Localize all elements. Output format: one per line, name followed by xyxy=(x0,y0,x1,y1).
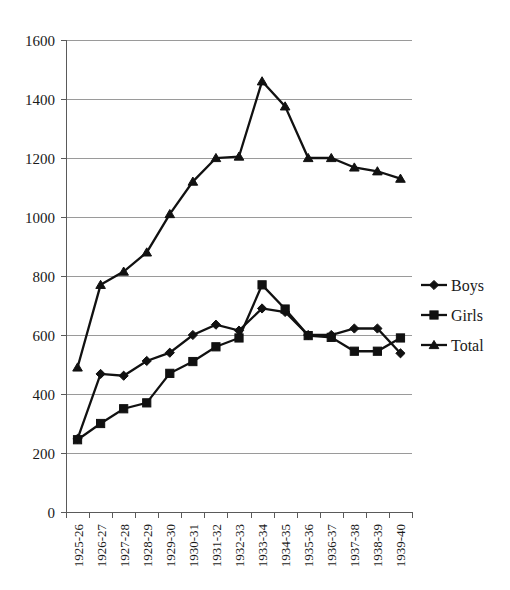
y-axis-tick-label: 0 xyxy=(48,505,56,521)
line-chart: 02004006008001000120014001600 1925-26192… xyxy=(0,0,510,590)
y-axis-tick-labels: 02004006008001000120014001600 xyxy=(25,33,55,521)
y-axis-tick-label: 1400 xyxy=(25,92,55,108)
x-axis-tick-label: 1936-37 xyxy=(324,524,339,568)
data-point-square-marker xyxy=(327,333,335,341)
data-point-triangle-marker xyxy=(257,77,267,85)
legend-label: Boys xyxy=(451,277,484,295)
data-point-square-marker xyxy=(430,311,438,319)
x-axis-tick-label: 1929-30 xyxy=(163,524,178,567)
data-point-square-marker xyxy=(373,347,381,355)
data-point-square-marker xyxy=(235,334,243,342)
gridlines xyxy=(66,41,412,454)
y-axis-tick-label: 1600 xyxy=(25,33,55,49)
data-point-square-marker xyxy=(396,334,404,342)
data-point-square-marker xyxy=(212,343,220,351)
data-point-triangle-marker xyxy=(142,248,152,256)
y-axis-tick-label: 1200 xyxy=(25,151,55,167)
y-axis-tick-label: 400 xyxy=(33,387,56,403)
data-point-square-marker xyxy=(97,419,105,427)
series-boys xyxy=(73,304,405,444)
data-series xyxy=(73,77,406,444)
axes xyxy=(61,40,413,518)
data-point-square-marker xyxy=(258,281,266,289)
data-point-square-marker xyxy=(304,331,312,339)
x-axis-tick-label: 1930-31 xyxy=(186,524,201,567)
x-axis-tick-label: 1926-27 xyxy=(94,524,109,568)
data-point-square-marker xyxy=(143,399,151,407)
x-axis-tick-label: 1931-32 xyxy=(209,524,224,567)
data-point-diamond-marker xyxy=(211,320,220,329)
x-axis-tick-label: 1937-38 xyxy=(347,524,362,567)
legend: BoysGirlsTotal xyxy=(421,277,484,354)
data-point-triangle-marker xyxy=(96,280,106,288)
x-axis-tick-label: 1928-29 xyxy=(140,524,155,567)
data-point-square-marker xyxy=(189,357,197,365)
x-axis-tick-label: 1933-34 xyxy=(255,524,270,568)
chart-canvas: 02004006008001000120014001600 1925-26192… xyxy=(0,0,510,590)
data-point-diamond-marker xyxy=(429,280,438,289)
legend-item-total[interactable]: Total xyxy=(421,337,484,354)
y-axis-tick-label: 1000 xyxy=(25,210,55,226)
x-axis-tick-label: 1939-40 xyxy=(393,524,408,567)
series-girls xyxy=(73,281,404,444)
y-axis-tick-label: 800 xyxy=(33,269,56,285)
data-point-square-marker xyxy=(73,436,81,444)
x-axis-tick-label: 1938-39 xyxy=(370,524,385,567)
legend-label: Girls xyxy=(451,307,483,324)
x-axis-tick-label: 1925-26 xyxy=(71,524,86,568)
data-point-square-marker xyxy=(281,305,289,313)
data-point-square-marker xyxy=(166,369,174,377)
x-axis-tick-labels: 1925-261926-271927-281928-291929-301930-… xyxy=(71,524,409,568)
legend-label: Total xyxy=(451,337,484,354)
data-point-diamond-marker xyxy=(96,369,105,378)
data-point-square-marker xyxy=(120,405,128,413)
x-axis-tick-label: 1934-35 xyxy=(278,524,293,567)
data-point-diamond-marker xyxy=(350,324,359,333)
series-line-total xyxy=(78,81,401,367)
y-axis-tick-label: 200 xyxy=(33,446,56,462)
x-axis-tick-label: 1932-33 xyxy=(232,524,247,567)
legend-item-girls[interactable]: Girls xyxy=(421,307,483,324)
data-point-triangle-marker xyxy=(73,363,83,371)
x-axis-tick-label: 1935-36 xyxy=(301,524,316,568)
legend-item-boys[interactable]: Boys xyxy=(421,277,484,295)
x-axis-tick-label: 1927-28 xyxy=(117,524,132,567)
data-point-square-marker xyxy=(350,347,358,355)
series-line-girls xyxy=(78,285,401,440)
y-axis-tick-label: 600 xyxy=(33,328,56,344)
